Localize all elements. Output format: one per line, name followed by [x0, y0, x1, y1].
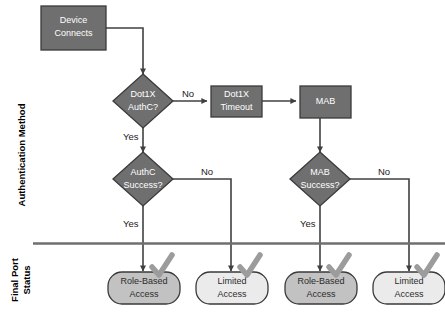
node-mab-label: MAB [316, 96, 336, 106]
node-mab[interactable]: MAB [300, 86, 351, 118]
node-dot1x-timeout[interactable]: Dot1X Timeout [211, 86, 262, 117]
node-terminal-role-based-access-1-line1: Role-Based [120, 276, 167, 286]
node-terminal-limited-access-2-line2: Access [394, 289, 424, 299]
lane-label-final-port-status-line2: Status [21, 265, 32, 294]
node-device-connects-line1: Device [60, 15, 88, 25]
flowchart-canvas: Device Connects Dot1X AuthC? Dot1X Timeo… [0, 0, 445, 317]
edge-label-dot1x-yes: Yes [123, 131, 139, 142]
edge-label-mab-no: No [378, 166, 390, 177]
lane-label-authentication-method-text: Authentication Method [16, 103, 27, 206]
edge-label-authc-no: No [201, 166, 213, 177]
node-terminal-limited-access-1-line2: Access [217, 289, 247, 299]
lane-label-final-port-status-line1: Final Port [9, 257, 20, 302]
lane-label-final-port-status: Final Port Status [9, 257, 32, 302]
node-dot1x-timeout-line1: Dot1X [224, 89, 249, 99]
node-terminal-role-based-access-1[interactable]: Role-Based Access [108, 272, 180, 304]
node-mab-success-line2: Success? [300, 180, 339, 190]
edge-label-authc-yes: Yes [123, 218, 139, 229]
node-terminal-limited-access-2-line1: Limited [394, 276, 423, 286]
node-device-connects[interactable]: Device Connects [41, 6, 106, 50]
node-terminal-role-based-access-2-line1: Role-Based [297, 276, 344, 286]
lane-label-authentication-method: Authentication Method [16, 103, 27, 206]
node-terminal-limited-access-1-line1: Limited [217, 276, 246, 286]
node-mab-success[interactable]: MAB Success? [290, 152, 350, 206]
node-device-connects-line2: Connects [54, 28, 93, 38]
node-dot1x-authc-line1: Dot1X [130, 89, 155, 99]
node-authc-success-line1: AuthC [130, 167, 156, 177]
node-dot1x-timeout-line2: Timeout [220, 102, 253, 112]
node-authc-success[interactable]: AuthC Success? [113, 152, 173, 206]
node-terminal-limited-access-1[interactable]: Limited Access [196, 272, 268, 304]
node-terminal-role-based-access-2[interactable]: Role-Based Access [285, 272, 357, 304]
node-mab-success-line1: MAB [310, 167, 330, 177]
node-dot1x-authc-line2: AuthC? [128, 102, 158, 112]
node-terminal-role-based-access-1-line2: Access [129, 289, 159, 299]
node-terminal-limited-access-2[interactable]: Limited Access [373, 272, 445, 304]
edge-label-dot1x-no: No [182, 88, 194, 99]
node-dot1x-authc[interactable]: Dot1X AuthC? [113, 74, 173, 128]
edge-label-mab-yes: Yes [300, 218, 316, 229]
node-terminal-role-based-access-2-line2: Access [306, 289, 336, 299]
node-layer: Device Connects Dot1X AuthC? Dot1X Timeo… [0, 0, 445, 317]
node-authc-success-line2: Success? [123, 180, 162, 190]
